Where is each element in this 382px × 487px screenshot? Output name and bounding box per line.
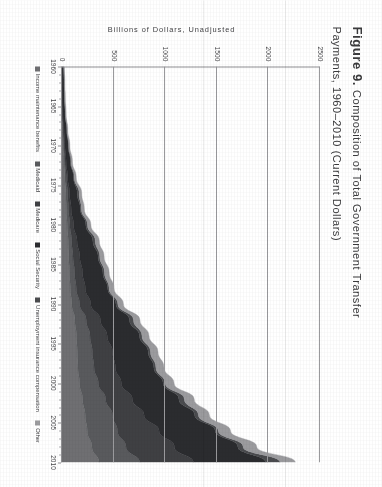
x-axis-tick-minor xyxy=(59,319,61,320)
x-axis-tick-major xyxy=(58,343,61,344)
grid-line xyxy=(216,66,217,462)
legend-swatch-icon xyxy=(36,297,41,302)
x-axis-tick-minor xyxy=(59,414,61,415)
x-axis-tick-minor xyxy=(59,256,61,257)
x-axis-tick-minor xyxy=(59,232,61,233)
x-axis-tick-minor xyxy=(59,121,61,122)
x-axis-tick-major xyxy=(58,145,61,146)
x-axis-tick-major xyxy=(58,264,61,265)
legend-label: Medicare xyxy=(35,208,41,233)
chart-legend: Income maintenance benefitsMedicaidMedic… xyxy=(35,66,41,464)
x-axis-tick-major xyxy=(58,224,61,225)
x-axis-tick: 1970 xyxy=(50,138,57,153)
x-axis-tick-major xyxy=(58,185,61,186)
x-axis-tick-major xyxy=(58,383,61,384)
grid-line xyxy=(164,66,165,462)
legend-label: Social Security xyxy=(35,249,41,289)
x-axis-tick-minor xyxy=(59,327,61,328)
grid-line xyxy=(113,66,114,462)
x-axis-tick-minor xyxy=(59,375,61,376)
figure-title-block: Figure 9. Composition of Total Governmen… xyxy=(327,26,367,456)
x-axis-tick-minor xyxy=(59,446,61,447)
y-axis-label-text: Billions of Dollars, Unadjusted xyxy=(108,25,236,34)
legend-item: Social Security xyxy=(35,242,41,289)
x-axis-tick: 1985 xyxy=(50,257,57,272)
legend-label: Medicaid xyxy=(35,168,41,192)
x-axis-tick: 2000 xyxy=(50,375,57,390)
x-axis-tick: 1995 xyxy=(50,336,57,351)
y-axis-tick: 1500 xyxy=(213,46,220,61)
y-axis-tick: 1000 xyxy=(162,46,169,61)
stacked-area-chart xyxy=(62,66,320,462)
x-axis-tick-minor xyxy=(59,399,61,400)
x-axis-tick-minor xyxy=(59,90,61,91)
x-axis-tick-minor xyxy=(59,201,61,202)
y-axis-line xyxy=(61,66,320,67)
x-axis-tick-minor xyxy=(59,153,61,154)
x-axis-tick-minor xyxy=(59,454,61,455)
y-axis-label: Billions of Dollars, Unadjusted xyxy=(24,22,320,36)
plot-area xyxy=(62,66,320,462)
x-axis-tick-labels: 1960196519701975198019851990199520002005… xyxy=(39,66,61,462)
legend-label: Other xyxy=(35,428,41,443)
x-axis-tick-minor xyxy=(59,240,61,241)
x-axis-tick-minor xyxy=(59,359,61,360)
x-axis-tick-minor xyxy=(59,177,61,178)
legend-label: Unemployment insurance compensation xyxy=(35,305,41,412)
x-axis-tick-major xyxy=(58,304,61,305)
x-axis-tick-minor xyxy=(59,296,61,297)
x-axis-tick-minor xyxy=(59,438,61,439)
x-axis-tick-minor xyxy=(59,129,61,130)
x-axis-tick-minor xyxy=(59,98,61,99)
x-axis-tick: 1975 xyxy=(50,177,57,192)
x-axis-tick-minor xyxy=(59,288,61,289)
legend-swatch-icon xyxy=(36,201,41,206)
x-axis-tick-minor xyxy=(59,407,61,408)
x-axis-tick-minor xyxy=(59,351,61,352)
x-axis-tick-minor xyxy=(59,161,61,162)
y-axis-tick-labels: 05001000150020002500 xyxy=(62,36,320,64)
legend-swatch-icon xyxy=(36,420,41,425)
chart-container: Billions of Dollars, Unadjusted 05001000… xyxy=(24,26,320,464)
x-axis-tick-minor xyxy=(59,137,61,138)
legend-item: Medicare xyxy=(35,201,41,233)
legend-item: Medicaid xyxy=(35,161,41,192)
x-axis-tick: 2005 xyxy=(50,415,57,430)
x-axis-tick: 1980 xyxy=(50,217,57,232)
x-axis-tick: 2010 xyxy=(50,455,57,470)
y-axis-tick: 2500 xyxy=(317,46,324,61)
x-axis-tick-minor xyxy=(59,248,61,249)
legend-item: Other xyxy=(35,420,41,442)
x-axis-tick-minor xyxy=(59,312,61,313)
x-axis-tick-minor xyxy=(59,74,61,75)
figure-title-line-2: Payments, 1960–2010 (Current Dollars) xyxy=(327,26,347,456)
x-axis-tick-major xyxy=(58,106,61,107)
x-axis-tick-minor xyxy=(59,280,61,281)
grid-line xyxy=(267,66,268,462)
figure-number: Figure 9. xyxy=(350,26,365,85)
legend-item: Income maintenance benefits xyxy=(35,66,41,152)
legend-swatch-icon xyxy=(36,242,41,247)
x-axis-tick-minor xyxy=(59,391,61,392)
x-axis-tick-minor xyxy=(59,335,61,336)
legend-item: Unemployment insurance compensation xyxy=(35,297,41,411)
x-axis-line xyxy=(61,66,62,462)
y-axis-tick: 500 xyxy=(110,50,117,61)
scanned-figure-page: Figure 9. Composition of Total Governmen… xyxy=(0,0,382,487)
x-axis-tick-minor xyxy=(59,209,61,210)
x-axis-tick: 1990 xyxy=(50,296,57,311)
x-axis-tick-minor xyxy=(59,430,61,431)
figure-title-text-2: Payments, 1960–2010 (Current Dollars) xyxy=(331,26,343,241)
x-axis-tick: 1960 xyxy=(50,59,57,74)
x-axis-tick-minor xyxy=(59,216,61,217)
x-axis-tick-minor xyxy=(59,169,61,170)
x-axis-tick-major xyxy=(58,462,61,463)
x-axis-tick-major xyxy=(58,422,61,423)
figure-title-line-1: Figure 9. Composition of Total Governmen… xyxy=(347,26,367,456)
x-axis-tick: 1965 xyxy=(50,98,57,113)
x-axis-tick-minor xyxy=(59,193,61,194)
legend-swatch-icon xyxy=(36,66,41,71)
y-axis-tick: 0 xyxy=(59,57,66,61)
x-axis-tick-minor xyxy=(59,82,61,83)
figure-title-text-1: Composition of Total Government Transfer xyxy=(351,90,363,318)
